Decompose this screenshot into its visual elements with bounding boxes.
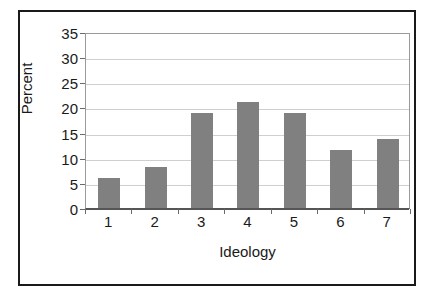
bar-chart: Percent 05101520253035 1234567 Ideology — [0, 0, 436, 297]
bar[interactable] — [145, 167, 167, 208]
x-axis-tick-label: 4 — [243, 214, 251, 229]
y-axis-tick-mark — [80, 108, 85, 109]
x-axis-tick-labels: 1234567 — [85, 214, 410, 236]
bar-slot — [225, 34, 271, 208]
y-axis-tick-labels: 05101520253035 — [44, 33, 78, 209]
y-axis-tick-label: 30 — [61, 51, 78, 66]
x-axis-title: Ideology — [85, 243, 410, 260]
y-axis-tick-mark — [80, 159, 85, 160]
y-axis-tick-mark — [80, 58, 85, 59]
plot-area — [85, 33, 410, 209]
gridline — [86, 209, 409, 210]
y-axis-tick-label: 0 — [70, 202, 78, 217]
y-axis-tick-mark — [80, 134, 85, 135]
bars-group — [86, 34, 409, 208]
bar-slot — [132, 34, 178, 208]
bar[interactable] — [377, 139, 399, 208]
x-axis-tick-mark — [410, 209, 411, 214]
bar[interactable] — [284, 113, 306, 208]
x-axis-tick-label: 6 — [336, 214, 344, 229]
bar[interactable] — [237, 102, 259, 208]
bar-slot — [179, 34, 225, 208]
bar-slot — [365, 34, 411, 208]
x-axis-tick-label: 3 — [197, 214, 205, 229]
y-axis-tick-mark — [80, 83, 85, 84]
bar-slot — [272, 34, 318, 208]
y-axis-tick-label: 10 — [61, 151, 78, 166]
bar-slot — [86, 34, 132, 208]
bar[interactable] — [330, 150, 352, 208]
x-axis-tick-label: 1 — [104, 214, 112, 229]
bar-slot — [318, 34, 364, 208]
bar[interactable] — [191, 113, 213, 208]
x-axis-tick-label: 5 — [290, 214, 298, 229]
y-axis-title: Percent — [18, 49, 35, 129]
y-axis-tick-label: 5 — [70, 176, 78, 191]
x-axis-tick-label: 2 — [150, 214, 158, 229]
bar[interactable] — [98, 178, 120, 208]
y-axis-tick-mark — [80, 184, 85, 185]
x-axis-tick-label: 7 — [383, 214, 391, 229]
y-axis-tick-label: 20 — [61, 101, 78, 116]
y-axis-tick-mark — [80, 33, 85, 34]
y-axis-tick-label: 35 — [61, 26, 78, 41]
y-axis-tick-label: 25 — [61, 76, 78, 91]
y-axis-tick-label: 15 — [61, 126, 78, 141]
figure-container: Percent 05101520253035 1234567 Ideology — [0, 0, 436, 297]
